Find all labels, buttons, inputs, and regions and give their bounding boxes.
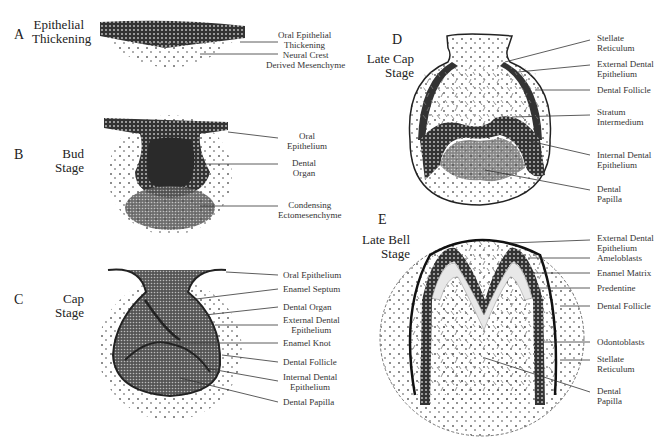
panel-b-letter: B	[14, 147, 23, 163]
label-oral-epithelial-thickening: Oral EpithelialThickening	[278, 30, 331, 50]
label-condensing-ectomesenchyme: CondensingEctomesenchyme	[278, 200, 341, 220]
panel-a-letter: A	[14, 27, 24, 43]
label-odontoblasts: Odontoblasts	[597, 337, 645, 347]
panel-e-drawing	[380, 240, 590, 436]
label-internal-dental-epithelium: Internal DentalEpithelium	[283, 372, 337, 392]
panel-b-drawing	[104, 115, 278, 235]
label-external-dental-epithelium: External DentalEpithelium	[283, 315, 340, 335]
panel-e-stage-title: Late BellStage	[356, 233, 410, 261]
label-internal-dental-epithelium: Internal DentalEpithelium	[597, 150, 651, 170]
panel-d-stage-title: Late CapStage	[362, 52, 414, 80]
label-oral-epithelium: OralEpithelium	[287, 131, 327, 151]
label-stratum-intermedium: StratumIntermedium	[597, 107, 644, 127]
stage-line: Epithelial	[32, 18, 84, 32]
label-stellate-reticulum: StellateReticulum	[597, 33, 635, 53]
label-dental-organ: Dental Organ	[283, 302, 332, 312]
label-external-dental-epithelium: External DentalEpithelium	[597, 59, 654, 79]
label-enamel-septum: Enamel Septum	[283, 284, 340, 294]
label-stellate-reticulum: StellateReticulum	[597, 354, 635, 374]
label-oral-epithelium: Oral Epithelium	[283, 270, 341, 280]
label-ameloblasts: Ameloblasts	[597, 253, 642, 263]
label-dental-organ: DentalOrgan	[292, 158, 316, 178]
label-dental-follicle: Dental Follicle	[597, 85, 651, 95]
label-dental-papilla: DentalPapilla	[597, 184, 622, 204]
label-dental-follicle: Dental Follicle	[597, 301, 651, 311]
panel-a-stage-title: Epithelial Thickening	[32, 18, 84, 46]
label-enamel-knot: Enamel Knot	[283, 338, 331, 348]
label-dental-follicle: Dental Follicle	[283, 357, 337, 367]
panel-c-stage-title: CapStage	[50, 292, 84, 320]
panel-d-drawing	[409, 34, 590, 205]
panel-d-letter: D	[392, 32, 402, 48]
label-dental-papilla: DentalPapilla	[597, 386, 622, 406]
label-enamel-matrix: Enamel Matrix	[597, 268, 651, 278]
label-neural-crest-mesenchyme: Neural CrestDerived Mesenchyme	[266, 50, 345, 70]
panel-e-letter: E	[378, 212, 387, 228]
panel-c-letter: C	[14, 292, 23, 308]
label-predentine: Predentine	[597, 283, 636, 293]
panel-c-drawing	[98, 269, 278, 420]
panel-b-stage-title: BudStage	[50, 147, 84, 175]
label-external-dental-epithelium: External DentalEpithelium	[597, 233, 654, 253]
stage-line: Thickening	[32, 32, 84, 46]
panel-a-drawing	[100, 21, 278, 68]
label-dental-papilla: Dental Papilla	[283, 397, 334, 407]
